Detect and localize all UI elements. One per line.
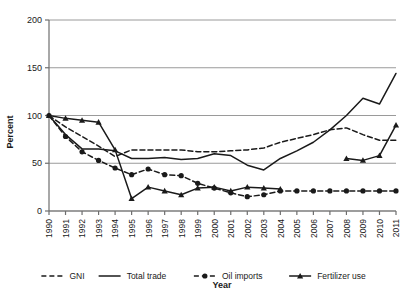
marker-2-20 xyxy=(377,188,382,193)
marker-2-19 xyxy=(360,188,365,193)
series-total-trade xyxy=(49,73,396,169)
x-tick-label-1993: 1993 xyxy=(94,219,104,238)
x-tick-label-1995: 1995 xyxy=(127,219,137,238)
x-tick-label-1996: 1996 xyxy=(144,219,154,238)
y-tick-label-50: 50 xyxy=(32,158,42,168)
marker-2-13 xyxy=(261,192,266,197)
x-tick-label-2002: 2002 xyxy=(243,219,253,238)
marker-2-17 xyxy=(327,188,332,193)
x-tick-label-2008: 2008 xyxy=(342,219,352,238)
x-tick-label-1998: 1998 xyxy=(177,219,187,238)
x-tick-label-2010: 2010 xyxy=(375,219,385,238)
marker-2-18 xyxy=(344,188,349,193)
marker-3-21 xyxy=(393,122,399,128)
x-tick-label-2009: 2009 xyxy=(358,219,368,238)
grid-lines xyxy=(49,20,396,211)
marker-2-7 xyxy=(162,172,167,177)
data-series xyxy=(46,73,399,201)
x-tick-label-1991: 1991 xyxy=(61,219,71,238)
marker-3-20 xyxy=(376,153,382,159)
x-tick-label-2004: 2004 xyxy=(276,219,286,238)
x-tick-label-1990: 1990 xyxy=(44,219,54,238)
legend-label-fertilizer-use: Fertilizer use xyxy=(317,271,366,281)
series-line-1-0 xyxy=(49,73,396,169)
x-tick-label-2000: 2000 xyxy=(210,219,220,238)
y-tick-label-0: 0 xyxy=(37,206,42,216)
x-tick-label-2003: 2003 xyxy=(259,219,269,238)
series-gni xyxy=(49,116,396,157)
y-axis: 050100150200 xyxy=(27,15,49,216)
y-tick-label-150: 150 xyxy=(27,63,42,73)
marker-2-8 xyxy=(179,173,184,178)
x-tick-label-2006: 2006 xyxy=(309,219,319,238)
marker-2-3 xyxy=(96,158,101,163)
legend-marker-2 xyxy=(202,273,207,278)
y-tick-label-200: 200 xyxy=(27,15,42,25)
x-tick-label-2007: 2007 xyxy=(325,219,335,238)
x-tick-label-1999: 1999 xyxy=(193,219,203,238)
series-oil-imports xyxy=(46,113,398,199)
legend-label-gni: GNI xyxy=(69,271,84,281)
x-tick-label-2011: 2011 xyxy=(391,219,401,238)
marker-2-15 xyxy=(294,188,299,193)
marker-2-4 xyxy=(112,165,117,170)
x-tick-label-2005: 2005 xyxy=(292,219,302,238)
marker-2-21 xyxy=(393,188,398,193)
chart-legend: GNITotal tradeOil importsFertilizer use xyxy=(41,271,366,281)
marker-2-12 xyxy=(245,194,250,199)
marker-2-5 xyxy=(129,172,134,177)
x-axis-label: Year xyxy=(212,280,232,290)
marker-3-6 xyxy=(145,184,151,190)
x-axis: 1990199119921993199419951996199719981999… xyxy=(44,211,401,238)
legend-label-oil-imports: Oil imports xyxy=(222,271,263,281)
marker-2-6 xyxy=(146,166,151,171)
y-axis-label: Percent xyxy=(5,115,15,148)
x-tick-label-1994: 1994 xyxy=(110,219,120,238)
series-line-0-0 xyxy=(49,116,396,157)
x-tick-label-1997: 1997 xyxy=(160,219,170,238)
line-chart: 050100150200 199019911992199319941995199… xyxy=(0,0,415,294)
marker-2-2 xyxy=(79,149,84,154)
x-tick-label-2001: 2001 xyxy=(226,219,236,238)
marker-2-16 xyxy=(311,188,316,193)
x-tick-label-1992: 1992 xyxy=(77,219,87,238)
legend-label-total-trade: Total trade xyxy=(127,271,167,281)
y-tick-label-100: 100 xyxy=(27,111,42,121)
chart-figure: 050100150200 199019911992199319941995199… xyxy=(0,0,415,294)
marker-2-1 xyxy=(63,134,68,139)
series-fertilizer-use xyxy=(46,112,399,201)
